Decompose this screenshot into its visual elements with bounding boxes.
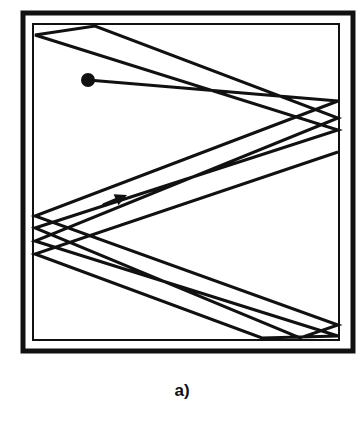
figure-caption: a) xyxy=(0,381,364,401)
billiard-diagram xyxy=(0,0,364,427)
inner-frame xyxy=(33,24,339,340)
trajectory-path xyxy=(35,26,338,338)
start-dot xyxy=(81,73,95,87)
outer-frame xyxy=(23,13,353,351)
